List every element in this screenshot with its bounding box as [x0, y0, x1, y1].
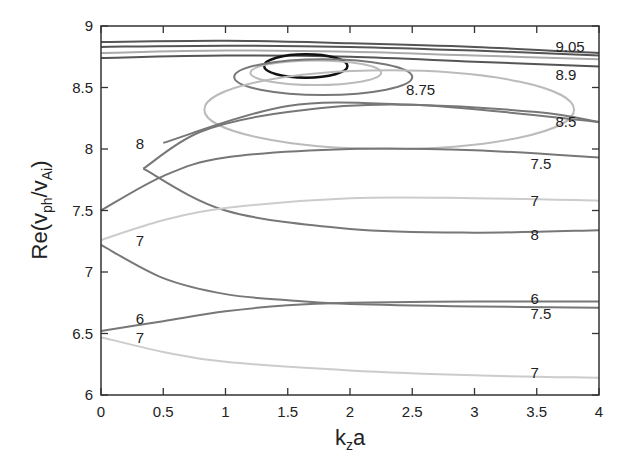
- axis-ticks: 00.511.522.533.5466.577.588.59: [72, 17, 603, 420]
- curve-6: [101, 301, 599, 331]
- curve-label: 6: [136, 310, 144, 327]
- curve-label: 8.9: [555, 66, 576, 83]
- x-tick-label: 2: [346, 403, 354, 420]
- x-tick-label: 2.5: [402, 403, 423, 420]
- x-tick-label: 3.5: [526, 403, 547, 420]
- svg-text:Re(vph/vAi): Re(vph/vAi): [27, 161, 55, 260]
- curve-label: 7: [531, 364, 539, 381]
- curve-label: 8: [136, 135, 144, 152]
- curve-label: 7: [136, 329, 144, 346]
- curve-labels: 9.058.98.758.587.578767.5677: [136, 38, 585, 381]
- dispersion-chart: 00.511.522.533.5466.577.588.59 9.058.98.…: [0, 0, 623, 468]
- y-tick-label: 6.5: [72, 325, 93, 342]
- curve-7-5: [101, 148, 599, 210]
- y-tick-label: 8.5: [72, 79, 93, 96]
- x-tick-label: 3: [470, 403, 478, 420]
- curve-label: 8: [531, 226, 539, 243]
- curve-label: 7.5: [531, 155, 552, 172]
- curve-label: 7.5: [531, 305, 552, 322]
- curve-label: 7: [531, 192, 539, 209]
- x-tick-label: 1.5: [277, 403, 298, 420]
- plot-frame: [101, 26, 599, 395]
- curve-7-lower-: [101, 337, 599, 378]
- curve-7-start-: [101, 245, 599, 308]
- curve-label: 8.5: [555, 113, 576, 130]
- x-tick-label: 4: [595, 403, 603, 420]
- y-tick-label: 7.5: [72, 202, 93, 219]
- x-tick-label: 0.5: [153, 403, 174, 420]
- curve-label: 9.05: [555, 38, 584, 55]
- x-tick-label: 0: [97, 403, 105, 420]
- x-tick-label: 1: [221, 403, 229, 420]
- curves-layer: [101, 41, 599, 378]
- x-axis-title: kza: [335, 425, 366, 453]
- y-tick-label: 6: [85, 386, 93, 403]
- y-axis-title: Re(vph/vAi): [27, 161, 55, 260]
- curve-7-upper-: [101, 197, 599, 240]
- y-tick-label: 7: [85, 263, 93, 280]
- y-tick-label: 8: [85, 140, 93, 157]
- curve-label: 7: [136, 232, 144, 249]
- curve-label: 8.75: [406, 81, 435, 98]
- y-tick-label: 9: [85, 17, 93, 34]
